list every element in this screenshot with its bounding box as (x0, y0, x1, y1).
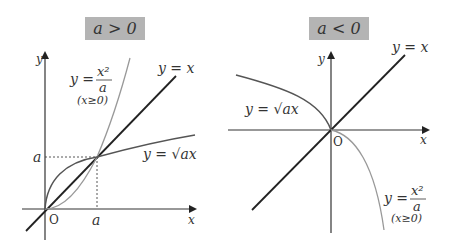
left-x-axis-label: x (188, 213, 195, 227)
right-y-axis-label: y (317, 52, 325, 66)
svg-text:y =: y = (383, 190, 408, 206)
svg-text:a: a (99, 80, 107, 95)
svg-text:x²: x² (97, 64, 110, 79)
svg-text:x²: x² (411, 183, 424, 198)
right-origin-label: O (333, 135, 343, 149)
left-title: a > 0 (93, 19, 136, 38)
right-x-axis-label: x (420, 133, 427, 147)
svg-text:(x≥0): (x≥0) (77, 94, 108, 107)
left-tick-y-a: a (33, 149, 41, 165)
left-y-axis-label: y (35, 52, 43, 66)
svg-text:y =: y = (69, 71, 94, 87)
inverse-function-diagram: a > 0 y x O a a y = x² a (x≥0) y = x y =… (0, 0, 452, 244)
right-sqrt-label: y = √ax (244, 101, 299, 117)
right-line-y-eq-x (252, 55, 405, 210)
right-title: a < 0 (317, 19, 360, 38)
left-origin-label: O (49, 213, 59, 227)
left-tick-x-a: a (92, 212, 100, 228)
left-sqrt-label: y = √ax (142, 146, 197, 162)
right-panel: a < 0 y x O y = x y = √ax y = x² a (x≥0) (228, 17, 429, 233)
left-line-label: y = x (157, 60, 195, 76)
svg-text:(x≥0): (x≥0) (391, 212, 422, 225)
right-parabola-label: y = x² a (x≥0) (383, 183, 426, 225)
left-panel: a > 0 y x O a a y = x² a (x≥0) y = x y =… (22, 17, 197, 240)
left-parabola-label: y = x² a (x≥0) (69, 64, 112, 107)
right-line-label: y = x (391, 39, 429, 55)
